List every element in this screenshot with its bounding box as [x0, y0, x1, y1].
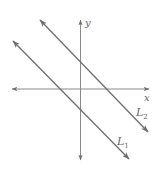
line-l1-label: L1 — [116, 135, 129, 150]
line-l2 — [40, 20, 148, 132]
y-axis-label: y — [84, 17, 91, 28]
coordinate-diagram: y x L2 L1 — [0, 0, 157, 176]
x-axis-label: x — [144, 92, 150, 103]
line-l2-label: L2 — [135, 106, 148, 121]
line-l1 — [13, 41, 129, 159]
